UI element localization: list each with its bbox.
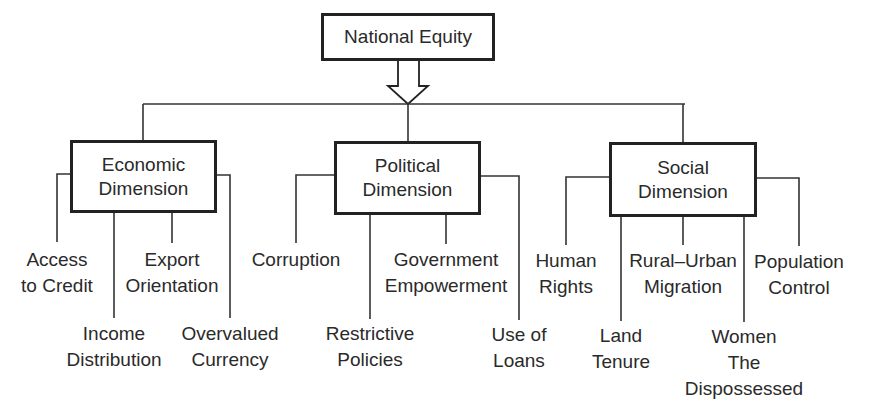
factor-line: The [685, 350, 803, 376]
dimension-label-line1: Economic [102, 153, 185, 177]
factor-line: to Credit [21, 273, 93, 299]
factor-overvalued-currency: Overvalued Currency [181, 321, 278, 373]
factor-government-empowerment: Government Empowerment [385, 247, 508, 299]
factor-land-tenure: Land Tenure [592, 323, 650, 375]
factor-line: Loans [492, 348, 547, 374]
factor-line: Migration [629, 274, 737, 300]
factor-line: Government [385, 247, 508, 273]
factor-line: Income [66, 321, 161, 347]
down-arrow-icon [388, 60, 428, 104]
dimension-node-political: Political Dimension [334, 141, 481, 215]
factor-line: Access [21, 247, 93, 273]
factor-restrictive-policies: Restrictive Policies [326, 321, 415, 373]
factor-population-control: Population Control [754, 249, 844, 301]
factor-line: Rural–Urban [629, 248, 737, 274]
factor-income-distribution: Income Distribution [66, 321, 161, 373]
factor-line: Policies [326, 347, 415, 373]
factor-line: Rights [535, 274, 596, 300]
dimension-label-line1: Social [657, 156, 709, 180]
dimension-label-line2: Dimension [638, 180, 728, 204]
factor-line: Use of [492, 322, 547, 348]
factor-line: Tenure [592, 349, 650, 375]
factor-line: Empowerment [385, 273, 508, 299]
factor-line: Women [685, 324, 803, 350]
factor-line: Corruption [252, 247, 341, 273]
factor-use-of-loans: Use of Loans [492, 322, 547, 374]
dimension-label-line2: Dimension [363, 178, 453, 202]
factor-export-orientation: Export Orientation [126, 247, 219, 299]
factor-corruption: Corruption [252, 247, 341, 273]
factor-line: Currency [181, 347, 278, 373]
factor-line: Orientation [126, 273, 219, 299]
root-label: National Equity [344, 25, 472, 49]
factor-line: Restrictive [326, 321, 415, 347]
factor-line: Human [535, 248, 596, 274]
factor-line: Population [754, 249, 844, 275]
dimension-label-line2: Dimension [99, 177, 189, 201]
factor-human-rights: Human Rights [535, 248, 596, 300]
dimension-label-line1: Political [375, 154, 440, 178]
factor-access-to-credit: Access to Credit [21, 247, 93, 299]
dimension-node-economic: Economic Dimension [70, 140, 217, 213]
factor-line: Overvalued [181, 321, 278, 347]
dimension-node-social: Social Dimension [609, 142, 757, 217]
factor-women-the-dispossessed: Women The Dispossessed [685, 324, 803, 402]
root-node-national-equity: National Equity [321, 13, 495, 61]
factor-line: Dispossessed [685, 376, 803, 402]
factor-line: Control [754, 275, 844, 301]
factor-line: Land [592, 323, 650, 349]
factor-line: Export [126, 247, 219, 273]
factor-line: Distribution [66, 347, 161, 373]
factor-rural-urban-migration: Rural–Urban Migration [629, 248, 737, 300]
